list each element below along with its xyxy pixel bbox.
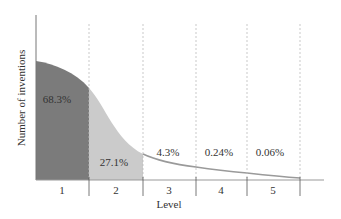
label-level-4: 0.24%: [205, 146, 233, 158]
level-1-area: [36, 61, 89, 180]
tick-label-2: 2: [113, 184, 119, 196]
label-level-5: 0.06%: [256, 146, 284, 158]
x-axis-title: Level: [156, 198, 181, 210]
tick-label-5: 5: [270, 184, 276, 196]
tick-label-4: 4: [218, 184, 224, 196]
y-axis-title: Number of inventions: [15, 50, 27, 147]
label-level-3: 4.3%: [157, 146, 180, 158]
tick-label-3: 3: [166, 184, 172, 196]
label-level-2: 27.1%: [100, 156, 128, 168]
tick-label-1: 1: [59, 184, 65, 196]
label-level-1: 68.3%: [43, 93, 71, 105]
chart: 68.3% 27.1% 4.3% 0.24% 0.06% 1 2 3 4 5 L…: [0, 0, 341, 219]
